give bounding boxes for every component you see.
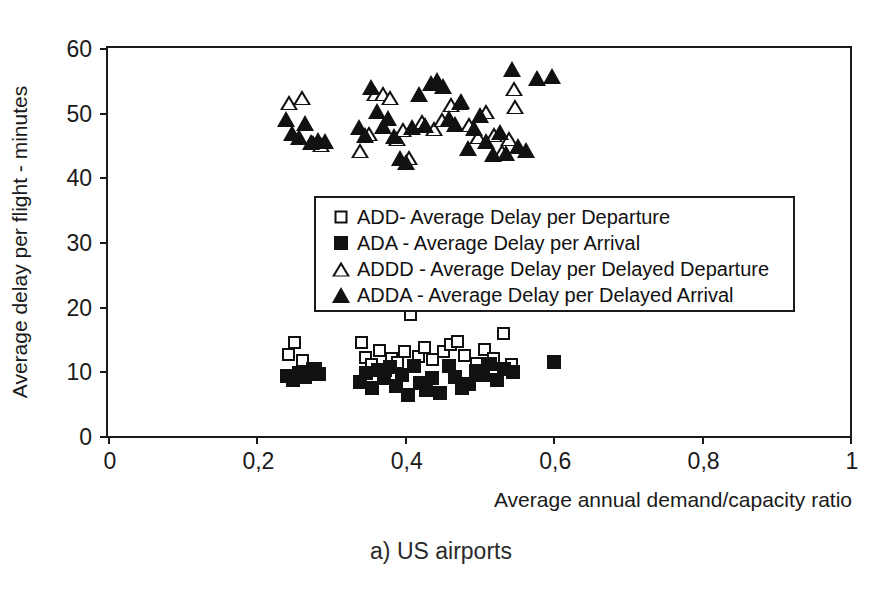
data-point-adda xyxy=(434,78,452,94)
data-point-adda xyxy=(296,115,314,131)
y-axis-tick: 40 xyxy=(100,177,108,179)
figure-us-airports: Average delay per flight - minutes 01020… xyxy=(0,0,882,596)
data-point-adda xyxy=(517,142,535,158)
data-point-ada xyxy=(312,367,326,381)
data-point-ada xyxy=(462,377,476,391)
cropped-header-sliver xyxy=(330,0,590,5)
x-axis-tick: 1 xyxy=(850,436,852,444)
y-axis-tick-label: 60 xyxy=(66,38,92,61)
data-point-add xyxy=(282,348,295,361)
x-axis-tick: 0,2 xyxy=(256,436,258,444)
data-point-adda xyxy=(446,116,464,132)
legend-label-ada: ADA - Average Delay per Arrival xyxy=(357,233,640,253)
filled-triangle-marker-icon xyxy=(330,285,352,305)
data-point-ada xyxy=(407,359,421,373)
data-point-adda xyxy=(452,93,470,109)
filled-square-marker-icon xyxy=(330,233,352,253)
open-square-marker-icon xyxy=(330,207,352,227)
data-point-adda xyxy=(356,127,374,143)
data-point-ada xyxy=(425,371,439,385)
data-point-ada xyxy=(433,386,447,400)
x-axis-tick: 0,4 xyxy=(405,436,407,444)
y-axis-title-text: Average delay per flight - minutes xyxy=(8,86,32,398)
data-point-add xyxy=(398,345,411,358)
data-point-addd xyxy=(506,99,524,114)
x-axis-tick-label: 0 xyxy=(104,450,117,473)
data-point-addd xyxy=(351,143,369,158)
data-point-addd xyxy=(505,81,523,96)
data-point-adda xyxy=(543,68,561,84)
y-axis-tick: 50 xyxy=(100,113,108,115)
data-point-add xyxy=(497,327,510,340)
y-axis-tick-label: 10 xyxy=(66,361,92,384)
x-axis-tick-label: 0,2 xyxy=(242,450,274,473)
data-point-ada xyxy=(547,355,561,369)
x-axis-tick: 0,6 xyxy=(553,436,555,444)
data-point-ada xyxy=(506,365,520,379)
data-point-adda xyxy=(379,110,397,126)
y-axis-tick: 30 xyxy=(100,242,108,244)
data-point-adda xyxy=(471,107,489,123)
data-point-adda xyxy=(416,117,434,133)
x-axis-tick-label: 0,8 xyxy=(688,450,720,473)
legend-item-add: ADD- Average Delay per Departure xyxy=(330,204,793,230)
data-point-ada xyxy=(483,357,497,371)
data-point-adda xyxy=(503,61,521,77)
legend-item-addd: ADDD - Average Delay per Delayed Departu… xyxy=(330,256,793,282)
y-axis-tick-label: 20 xyxy=(66,297,92,320)
legend-label-addd: ADDD - Average Delay per Delayed Departu… xyxy=(357,259,769,279)
x-axis-tick: 0 xyxy=(108,436,110,444)
data-point-adda xyxy=(459,140,477,156)
y-axis-tick: 60 xyxy=(100,48,108,50)
y-axis-tick-label: 30 xyxy=(66,232,92,255)
chart-legend: ADD- Average Delay per Departure ADA - A… xyxy=(314,196,795,312)
figure-caption: a) US airports xyxy=(0,538,882,565)
data-point-adda xyxy=(397,154,415,170)
data-point-addd xyxy=(293,90,311,105)
y-axis-tick-label: 50 xyxy=(66,103,92,126)
y-axis-tick-label: 0 xyxy=(79,426,92,449)
x-axis-tick-label: 1 xyxy=(846,450,859,473)
open-triangle-marker-icon xyxy=(330,259,352,279)
legend-label-add: ADD- Average Delay per Departure xyxy=(357,207,670,227)
data-point-add xyxy=(355,336,368,349)
y-axis-tick: 20 xyxy=(100,307,108,309)
y-axis-tick-label: 40 xyxy=(66,167,92,190)
x-axis-tick-label: 0,4 xyxy=(391,450,423,473)
data-point-add xyxy=(288,336,301,349)
data-point-ada xyxy=(419,383,433,397)
x-axis-tick-label: 0,6 xyxy=(539,450,571,473)
x-axis-tick: 0,8 xyxy=(702,436,704,444)
data-point-adda xyxy=(385,128,403,144)
data-point-add xyxy=(451,335,464,348)
y-axis-title: Average delay per flight - minutes xyxy=(6,46,34,438)
y-axis-tick: 10 xyxy=(100,371,108,373)
legend-label-adda: ADDA - Average Delay per Delayed Arrival xyxy=(357,285,733,305)
legend-item-adda: ADDA - Average Delay per Delayed Arrival xyxy=(330,282,793,308)
data-point-adda xyxy=(362,79,380,95)
x-axis-title: Average annual demand/capacity ratio xyxy=(106,488,852,512)
legend-item-ada: ADA - Average Delay per Arrival xyxy=(330,230,793,256)
data-point-adda xyxy=(491,124,509,140)
y-axis-tick: 0 xyxy=(100,436,108,438)
data-point-adda xyxy=(316,133,334,149)
